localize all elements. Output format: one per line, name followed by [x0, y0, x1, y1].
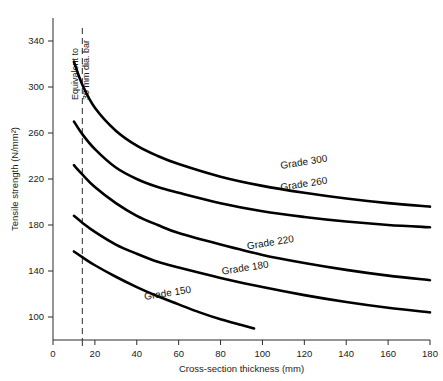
x-tick-label: 20 [90, 348, 101, 359]
x-tick-label: 0 [50, 348, 55, 359]
series-label-grade-260: Grade 260 [280, 174, 329, 192]
chart-figure: 1001401802202603003400204060801001201401… [0, 0, 443, 381]
series-label-grade-300: Grade 300 [280, 153, 329, 171]
tensile-strength-vs-thickness-chart: 1001401802202603003400204060801001201401… [0, 0, 443, 381]
y-tick-label: 300 [28, 81, 44, 92]
y-tick-label: 220 [28, 173, 44, 184]
y-tick-label: 260 [28, 127, 44, 138]
x-axis-title: Cross-section thickness (mm) [179, 363, 304, 374]
series-label-grade-180: Grade 180 [221, 258, 270, 276]
x-tick-label: 80 [215, 348, 226, 359]
y-tick-label: 140 [28, 265, 44, 276]
x-tick-label: 100 [255, 348, 271, 359]
y-tick-label: 100 [28, 311, 44, 322]
axis-lines [53, 18, 430, 340]
y-tick-label: 340 [28, 35, 44, 46]
x-tick-label: 160 [380, 348, 396, 359]
x-tick-label: 140 [338, 348, 354, 359]
x-tick-label: 60 [173, 348, 184, 359]
y-axis-title: Tensile strength (N/mm²) [9, 127, 20, 231]
x-tick-label: 40 [131, 348, 142, 359]
x-tick-label: 180 [422, 348, 438, 359]
x-tick-label: 120 [296, 348, 312, 359]
series-label-grade-220: Grade 220 [246, 233, 295, 251]
y-tick-label: 180 [28, 219, 44, 230]
curve-grade-300 [74, 62, 430, 207]
